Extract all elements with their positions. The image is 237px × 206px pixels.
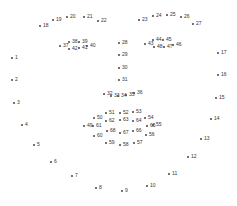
landmark-point: 53 [132,109,142,114]
landmark-point: 4 [21,122,28,127]
landmark-point: 44 [152,37,162,42]
dot-marker-icon [132,130,134,132]
point-label: 29 [122,52,128,57]
dot-marker-icon [13,102,15,104]
point-label: 27 [196,21,202,26]
point-label: 18 [43,23,49,28]
dot-marker-icon [105,120,107,122]
point-label: 19 [56,17,62,22]
dot-marker-icon [152,15,154,17]
dot-marker-icon [145,134,147,136]
point-label: 60 [97,133,103,138]
dot-marker-icon [133,92,135,94]
dot-marker-icon [83,16,85,18]
landmark-point: 48 [153,44,163,49]
dot-marker-icon [200,138,202,140]
landmark-point: 10 [146,183,156,188]
landmark-point: 38 [68,39,78,44]
point-label: 53 [136,109,142,114]
point-label: 48 [157,44,163,49]
point-label: 13 [204,136,210,141]
point-label: 51 [109,110,115,115]
dot-marker-icon [125,94,127,96]
landmark-point: 26 [180,14,190,19]
landmark-point: 5 [33,142,40,147]
landmark-point: 12 [187,154,197,159]
landmark-point: 65 [146,123,156,128]
landmark-point: 11 [168,171,177,176]
point-label: 31 [122,77,128,82]
dot-marker-icon [117,95,119,97]
landmark-point: 66 [132,128,142,133]
landmark-point: 60 [93,133,103,138]
point-label: 57 [137,140,143,145]
dot-marker-icon [11,57,13,59]
point-label: 26 [184,14,190,19]
landmark-point: 25 [166,12,176,17]
landmark-point: 9 [121,188,128,193]
landmark-point: 21 [83,14,93,19]
dot-marker-icon [106,130,108,132]
dot-marker-icon [105,112,107,114]
dot-marker-icon [132,111,134,113]
point-label: 11 [172,171,177,176]
landmark-point: 64 [132,118,142,123]
landmark-point: 7 [71,173,78,178]
dot-marker-icon [138,19,140,21]
point-label: 45 [166,37,172,42]
landmark-point: 58 [119,142,129,147]
point-label: 21 [87,14,93,19]
dot-marker-icon [68,41,70,43]
point-label: 7 [75,173,78,178]
dot-marker-icon [192,23,194,25]
landmark-point: 8 [95,185,102,190]
point-label: 16 [221,72,227,77]
point-label: 2 [15,77,18,82]
point-label: 8 [99,185,102,190]
point-label: 38 [72,39,78,44]
point-label: 24 [156,13,162,18]
point-label: 17 [221,50,227,55]
dot-marker-icon [97,20,99,22]
point-label: 3 [17,100,20,105]
landmark-canvas: 1234567891011121314151617181920212223242… [0,0,237,206]
dot-marker-icon [166,14,168,16]
point-label: 14 [214,116,220,121]
point-label: 42 [72,46,78,51]
landmark-point: 14 [210,116,220,121]
point-label: 46 [176,42,182,47]
dot-marker-icon [121,190,123,192]
point-label: 54 [148,115,154,120]
dot-marker-icon [95,187,97,189]
landmark-point: 24 [152,13,162,18]
point-label: 59 [109,140,115,145]
landmark-point: 59 [105,140,115,145]
landmark-point: 31 [118,77,128,82]
landmark-point: 63 [119,117,129,122]
point-label: 15 [219,95,225,100]
dot-marker-icon [187,156,189,158]
point-label: 63 [123,117,129,122]
point-label: 41 [82,45,88,50]
landmark-point: 2 [11,77,18,82]
dot-marker-icon [68,48,70,50]
landmark-point: 50 [93,115,103,120]
landmark-point: 3 [13,100,20,105]
dot-marker-icon [144,117,146,119]
dot-marker-icon [93,135,95,137]
point-label: 28 [122,40,128,45]
dot-marker-icon [33,144,35,146]
landmark-point: 62 [105,118,115,123]
point-label: 62 [109,118,115,123]
dot-marker-icon [119,119,121,121]
dot-marker-icon [146,185,148,187]
landmark-point: 16 [217,72,227,77]
point-label: 22 [101,18,107,23]
point-label: 30 [122,65,128,70]
landmark-point: 41 [78,45,88,50]
point-label: 36 [137,90,143,95]
landmark-point: 13 [200,136,210,141]
landmark-point: 68 [106,128,116,133]
dot-marker-icon [118,54,120,56]
landmark-point: 47 [163,44,173,49]
